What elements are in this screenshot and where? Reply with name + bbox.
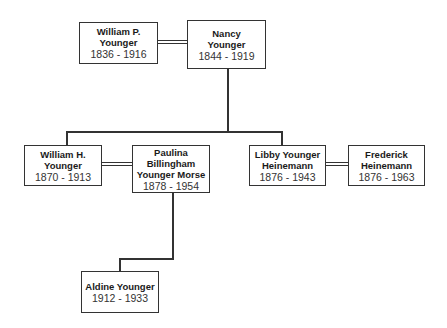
- person-dates: 1878 - 1954: [143, 180, 199, 192]
- person-name: Heinemann: [361, 160, 412, 171]
- sibling-line: [66, 131, 283, 133]
- person-name: Billingham: [147, 158, 196, 169]
- marriage-line: [101, 162, 133, 166]
- child-connector: [119, 258, 174, 260]
- person-dates: 1876 - 1943: [259, 171, 315, 183]
- person-dates: 1870 - 1913: [35, 171, 91, 183]
- person-dates: 1912 - 1933: [92, 292, 148, 304]
- person-name: Nancy: [212, 28, 241, 39]
- person-name: Paulina: [154, 147, 188, 158]
- person-box-william-h: William H. Younger 1870 - 1913: [24, 145, 102, 186]
- marriage-line: [157, 40, 188, 44]
- person-dates: 1876 - 1963: [358, 171, 414, 183]
- child-line: [119, 258, 121, 272]
- person-name: William H.: [40, 149, 85, 160]
- person-name: Younger Morse: [137, 169, 205, 180]
- person-name: Libby Younger: [255, 149, 321, 160]
- person-box-paulina: Paulina Billingham Younger Morse 1878 - …: [132, 145, 210, 193]
- person-name: Younger: [100, 37, 138, 48]
- person-name: Frederick: [365, 149, 408, 160]
- child-line: [281, 131, 283, 145]
- person-dates: 1836 - 1916: [90, 48, 146, 60]
- marriage-line: [325, 162, 349, 166]
- person-dates: 1844 - 1919: [198, 50, 254, 62]
- person-name: William P.: [97, 26, 141, 37]
- person-box-nancy: Nancy Younger 1844 - 1919: [187, 20, 266, 69]
- person-box-libby: Libby Younger Heinemann 1876 - 1943: [249, 145, 326, 186]
- person-name: Younger: [44, 160, 82, 171]
- person-box-william-p: William P. Younger 1836 - 1916: [79, 22, 158, 64]
- descent-line: [227, 68, 229, 132]
- person-box-aldine: Aldine Younger 1912 - 1933: [81, 271, 159, 313]
- person-name: Aldine Younger: [85, 281, 154, 292]
- child-line: [66, 131, 68, 145]
- person-box-frederick: Frederick Heinemann 1876 - 1963: [348, 145, 425, 186]
- person-name: Heinemann: [262, 160, 313, 171]
- person-name: Younger: [208, 39, 246, 50]
- descent-line: [172, 192, 174, 260]
